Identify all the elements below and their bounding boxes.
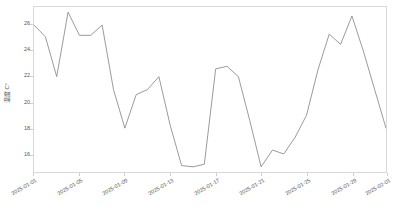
y-axis-tick-labels: 161820222426 — [12, 0, 30, 214]
plot-area — [33, 6, 387, 173]
y-axis-tick-mark — [30, 103, 33, 104]
y-axis-tick-mark — [30, 155, 33, 156]
x-axis-tick-label: 2025-01-09 — [97, 178, 129, 200]
y-axis-tick-label: 22 — [12, 74, 30, 80]
x-axis-tick-mark — [353, 173, 354, 176]
y-axis-tick-label: 16 — [12, 152, 30, 158]
y-axis-tick-label: 26 — [12, 22, 30, 28]
x-axis-tick-label: 2025-01-29 — [325, 178, 357, 200]
y-axis-tick-label: 20 — [12, 100, 30, 106]
y-axis-tick-mark — [30, 76, 33, 77]
x-axis-tick-label: 2025-01-05 — [51, 178, 83, 200]
x-axis-tick-mark — [170, 173, 171, 176]
temperature-line-series — [34, 12, 386, 167]
y-axis-tick-label: 24 — [12, 48, 30, 54]
x-axis-tick-mark — [261, 173, 262, 176]
x-axis-tick-mark — [307, 173, 308, 176]
x-axis-tick-label: 2025-01-25 — [280, 178, 312, 200]
x-axis-tick-label: 2025-01-17 — [188, 178, 220, 200]
x-axis-tick-mark — [387, 173, 388, 176]
plot-svg — [34, 7, 386, 172]
y-axis-tick-mark — [30, 24, 33, 25]
x-axis-tick-label: 2025-01-13 — [143, 178, 175, 200]
temperature-line-chart: 温度 C° 161820222426 2025-01-012025-01-052… — [0, 0, 394, 214]
y-axis-tick-mark — [30, 129, 33, 130]
x-axis-tick-mark — [124, 173, 125, 176]
x-axis-tick-label: 2025-01-21 — [234, 178, 266, 200]
y-axis-tick-mark — [30, 50, 33, 51]
x-axis-tick-mark — [33, 173, 34, 176]
x-axis-tick-label: 2025-02-01 — [360, 178, 392, 200]
x-axis-tick-mark — [79, 173, 80, 176]
y-axis-tick-label: 18 — [12, 126, 30, 132]
x-axis-tick-mark — [216, 173, 217, 176]
